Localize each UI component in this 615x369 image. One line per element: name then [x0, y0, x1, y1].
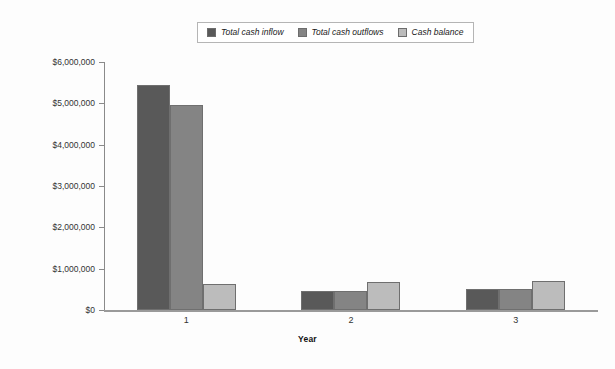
- bar-cash-balance-year-1[interactable]: [203, 284, 236, 310]
- bar-total-cash-inflow-year-2[interactable]: [301, 291, 334, 310]
- legend-swatch-icon: [207, 28, 216, 37]
- bar-total-cash-outflows-year-2[interactable]: [334, 291, 367, 310]
- x-axis-title: Year: [0, 334, 615, 344]
- x-axis-tick-label: 3: [513, 316, 518, 325]
- bar-cash-balance-year-3[interactable]: [532, 281, 565, 310]
- bar-chart: Total cash inflowTotal cash outflowsCash…: [0, 0, 615, 369]
- y-axis-tick: [99, 310, 104, 311]
- bar-cash-balance-year-2[interactable]: [367, 282, 400, 310]
- bar-total-cash-outflows-year-3[interactable]: [499, 289, 532, 310]
- bar-cluster: [433, 62, 598, 310]
- y-axis-tick-label: $4,000,000: [52, 140, 95, 149]
- bar-cluster: [269, 62, 434, 310]
- bar-cluster: [104, 62, 269, 310]
- chart-legend: Total cash inflowTotal cash outflowsCash…: [197, 22, 474, 43]
- y-axis-tick-label: $5,000,000: [52, 99, 95, 108]
- legend-item-label: Total cash inflow: [221, 28, 284, 37]
- y-axis-tick-label: $3,000,000: [52, 182, 95, 191]
- legend-item[interactable]: Total cash outflows: [298, 28, 384, 37]
- legend-swatch-icon: [298, 28, 307, 37]
- x-axis-line: [104, 310, 598, 312]
- legend-item-label: Cash balance: [412, 28, 464, 37]
- y-axis-tick-label: $6,000,000: [52, 58, 95, 67]
- x-axis-tick-label: 1: [184, 316, 189, 325]
- x-axis-tick-label: 2: [348, 316, 353, 325]
- y-axis-tick-label: $1,000,000: [52, 264, 95, 273]
- bar-total-cash-outflows-year-1[interactable]: [170, 105, 203, 310]
- legend-swatch-icon: [398, 28, 407, 37]
- plot-area: $0$1,000,000$2,000,000$3,000,000$4,000,0…: [104, 62, 598, 310]
- y-axis-tick-label: $2,000,000: [52, 223, 95, 232]
- legend-item[interactable]: Total cash inflow: [207, 28, 284, 37]
- legend-item-label: Total cash outflows: [312, 28, 384, 37]
- bar-total-cash-inflow-year-1[interactable]: [137, 85, 170, 310]
- y-axis-tick-label: $0: [86, 306, 95, 315]
- bar-total-cash-inflow-year-3[interactable]: [466, 289, 499, 310]
- legend-item[interactable]: Cash balance: [398, 28, 464, 37]
